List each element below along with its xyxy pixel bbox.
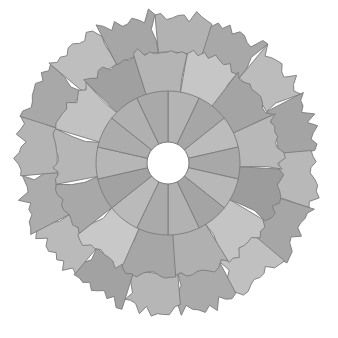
- mosaic-svg: [0, 0, 338, 338]
- radial-mosaic-diagram: [0, 0, 338, 338]
- center-hole: [147, 142, 189, 184]
